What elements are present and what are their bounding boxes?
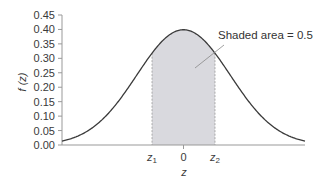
y-tick-label: 0.20 <box>34 81 55 93</box>
y-tick-label: 0.45 <box>34 9 55 21</box>
x-tick-label: z1 <box>146 151 158 165</box>
x-tick-label: 0 <box>180 151 186 163</box>
y-tick-label: 0.30 <box>34 52 55 64</box>
y-tick-label: 0.05 <box>34 125 55 137</box>
y-tick-label: 0.35 <box>34 38 55 50</box>
annotation-text: Shaded area = 0.5 <box>218 29 313 41</box>
normal-distribution-chart: 0.000.050.100.150.200.250.300.350.400.45… <box>0 0 322 184</box>
x-tick-label: z2 <box>209 151 221 165</box>
shaded-region <box>152 30 215 145</box>
y-tick-label: 0.40 <box>34 23 55 35</box>
y-tick-label: 0.25 <box>34 67 55 79</box>
y-tick-label: 0.15 <box>34 96 55 108</box>
y-axis-label: f (z) <box>16 72 28 91</box>
y-tick-label: 0.10 <box>34 110 55 122</box>
x-axis-label: z <box>180 166 187 178</box>
shaded-area <box>152 30 215 145</box>
y-tick-label: 0.00 <box>34 139 55 151</box>
